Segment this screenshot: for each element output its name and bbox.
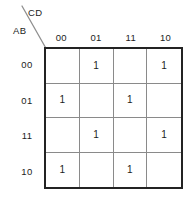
kmap-grid: 1 1 1 1 1 1 1 1 (44, 47, 183, 189)
kmap-cell (46, 118, 80, 153)
kmap-cell: 1 (114, 153, 148, 188)
kmap-cell: 1 (80, 118, 114, 153)
column-header-0: 00 (44, 30, 79, 45)
karnaugh-map-figure: CD AB 00 01 11 10 00 01 11 10 1 1 1 1 1 … (0, 0, 191, 202)
kmap-cell: 1 (147, 118, 181, 153)
kmap-cell: 1 (46, 153, 80, 188)
kmap-cell: 1 (114, 84, 148, 119)
row-variables-label: AB (13, 25, 26, 36)
cell-value: 1 (127, 164, 133, 174)
column-header-row: 00 01 11 10 (44, 30, 183, 45)
kmap-cell (80, 153, 114, 188)
column-header-1: 01 (79, 30, 114, 45)
column-variables-label: CD (28, 7, 43, 18)
row-header-1: 01 (14, 83, 40, 119)
kmap-cell (147, 84, 181, 119)
kmap-cell (80, 84, 114, 119)
cell-value: 1 (93, 60, 99, 70)
row-header-column: 00 01 11 10 (14, 47, 40, 189)
kmap-cell: 1 (46, 84, 80, 119)
column-header-2: 11 (114, 30, 149, 45)
row-header-0: 00 (14, 47, 40, 83)
cell-value: 1 (161, 129, 167, 139)
cell-value: 1 (60, 164, 66, 174)
kmap-cell: 1 (80, 49, 114, 84)
cell-value: 1 (93, 129, 99, 139)
cell-value: 1 (60, 95, 66, 105)
row-header-3: 10 (14, 154, 40, 190)
kmap-cell (147, 153, 181, 188)
cell-value: 1 (161, 60, 167, 70)
kmap-cell (46, 49, 80, 84)
column-header-3: 10 (148, 30, 183, 45)
kmap-cell: 1 (147, 49, 181, 84)
cell-value: 1 (127, 95, 133, 105)
kmap-cell (114, 118, 148, 153)
kmap-cell (114, 49, 148, 84)
row-header-2: 11 (14, 118, 40, 154)
